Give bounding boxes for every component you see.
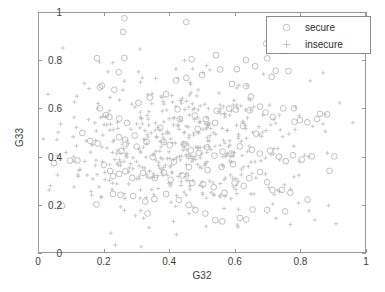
legend-entry-insecure[interactable]: insecure [267, 36, 370, 53]
data-point-plus [74, 144, 78, 148]
data-point-circle [267, 148, 273, 154]
data-point-plus [252, 105, 256, 109]
data-point-plus [135, 122, 139, 126]
x-tick-mark [104, 12, 105, 16]
x-tick-label: 0 [35, 256, 41, 267]
data-point-circle [282, 208, 288, 214]
data-point-circle [101, 162, 107, 168]
data-point-plus [134, 160, 138, 164]
data-point-plus [90, 193, 94, 197]
data-point-plus [271, 202, 275, 206]
legend-entry-secure[interactable]: secure [267, 19, 370, 36]
x-tick-label: 0.4 [162, 256, 176, 267]
data-point-plus [122, 79, 126, 83]
data-point-plus [165, 108, 169, 112]
data-point-plus [245, 116, 249, 120]
data-point-plus [321, 122, 325, 126]
data-point-plus [351, 121, 355, 125]
data-point-plus [97, 185, 101, 189]
data-point-plus [208, 68, 212, 72]
data-point-circle [132, 133, 138, 139]
x-tick-label: 0.8 [293, 256, 307, 267]
data-point-plus [150, 188, 154, 192]
data-point-circle [189, 56, 195, 62]
data-point-plus [95, 173, 99, 177]
data-point-plus [198, 119, 202, 123]
data-point-plus [188, 187, 192, 191]
data-point-plus [99, 115, 103, 119]
data-point-plus [141, 145, 145, 149]
data-point-plus [83, 159, 87, 163]
y-tick-mark [362, 108, 366, 109]
data-point-circle [95, 141, 101, 147]
legend[interactable]: secure insecure [266, 16, 371, 54]
x-tick-label: 0.6 [228, 256, 242, 267]
data-point-circle [229, 81, 235, 87]
legend-label-secure: secure [305, 22, 335, 33]
data-point-circle [252, 63, 258, 69]
data-point-circle [212, 217, 218, 223]
data-point-plus [74, 125, 78, 129]
data-point-plus [143, 166, 147, 170]
data-point-plus [108, 128, 112, 132]
legend-label-insecure: insecure [305, 39, 343, 50]
data-point-circle [94, 55, 100, 61]
circle-marker-icon [267, 22, 305, 33]
y-tick-mark [362, 12, 366, 13]
data-point-plus [170, 171, 174, 175]
data-point-circle [263, 110, 269, 116]
data-point-plus [93, 163, 97, 167]
data-point-circle [276, 154, 282, 160]
data-point-plus [103, 170, 107, 174]
data-point-circle [167, 142, 173, 148]
data-point-plus [89, 150, 93, 154]
data-point-plus [162, 120, 166, 124]
data-point-plus [147, 169, 151, 173]
data-point-plus [146, 135, 150, 139]
data-point-plus [252, 192, 256, 196]
data-point-plus [72, 185, 76, 189]
data-point-plus [103, 178, 107, 182]
data-point-plus [196, 108, 200, 112]
data-point-circle [110, 191, 116, 197]
x-tick-mark [235, 12, 236, 16]
data-point-plus [321, 71, 325, 75]
data-point-plus [263, 156, 267, 160]
data-point-plus [207, 106, 211, 110]
data-point-plus [115, 151, 119, 155]
data-point-circle [163, 91, 169, 97]
data-point-plus [187, 212, 191, 216]
data-point-plus [187, 133, 191, 137]
data-point-circle [257, 151, 263, 157]
data-point-plus [108, 95, 112, 99]
data-point-plus [107, 178, 111, 182]
data-point-plus [217, 91, 221, 95]
data-point-plus [77, 168, 81, 172]
data-point-plus [100, 160, 104, 164]
y-tick-mark [362, 157, 366, 158]
data-point-circle [152, 196, 158, 202]
data-point-circle [279, 187, 285, 193]
data-point-plus [292, 175, 296, 179]
data-point-plus [184, 99, 188, 103]
data-point-plus [140, 76, 144, 80]
data-point-plus [196, 88, 200, 92]
y-tick-mark [362, 205, 366, 206]
data-point-plus [147, 110, 151, 114]
y-tick-mark [362, 60, 366, 61]
data-point-plus [138, 110, 142, 114]
data-point-plus [123, 196, 127, 200]
data-point-plus [209, 190, 213, 194]
data-point-circle [168, 177, 174, 183]
data-point-plus [162, 102, 166, 106]
data-point-plus [198, 104, 202, 108]
data-point-plus [47, 188, 51, 192]
data-point-plus [130, 102, 134, 106]
data-point-plus [72, 115, 76, 119]
y-tick-label: 1 [56, 7, 62, 18]
data-point-plus [170, 93, 174, 97]
data-point-plus [91, 177, 95, 181]
y-tick-label: 0.4 [48, 151, 62, 162]
data-point-plus [277, 113, 281, 117]
data-point-circle [87, 138, 93, 144]
